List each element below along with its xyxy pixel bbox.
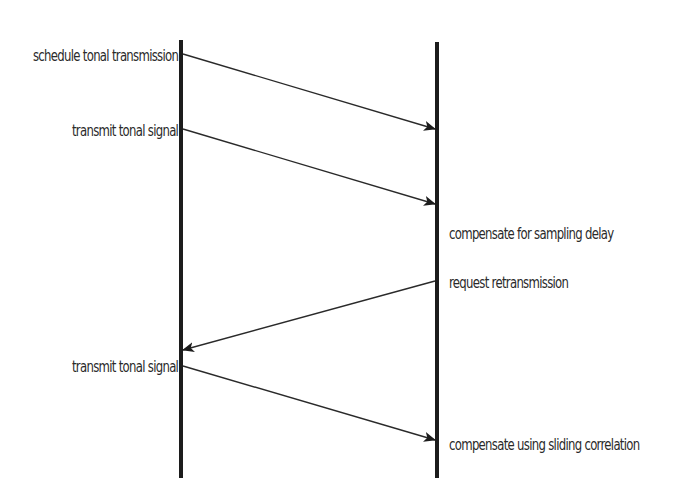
diagram-graphics xyxy=(0,0,682,502)
message-arrow-retransmission-request xyxy=(183,281,435,350)
label-compensate-sampling-delay: compensate for sampling delay xyxy=(449,225,613,243)
message-arrow-transmit-2 xyxy=(183,366,435,440)
label-transmit-tonal-signal-2: transmit tonal signal xyxy=(72,358,178,376)
label-transmit-tonal-signal-1: transmit tonal signal xyxy=(72,122,178,140)
label-request-retransmission: request retransmission xyxy=(449,274,568,292)
sequence-diagram: schedule tonal transmission transmit ton… xyxy=(0,0,682,502)
label-schedule-tonal-transmission: schedule tonal transmission xyxy=(33,47,178,65)
message-arrow-schedule xyxy=(183,54,435,129)
message-arrow-transmit-1 xyxy=(183,129,435,204)
label-compensate-sliding-correlation: compensate using sliding correlation xyxy=(449,436,639,454)
